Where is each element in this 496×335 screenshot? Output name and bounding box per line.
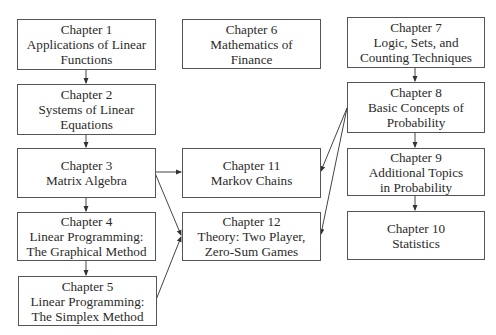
chapter-title-line: Theory: Two Player,: [198, 229, 306, 244]
chapter-heading: Chapter 4: [61, 214, 113, 229]
arrow-ch3-ch12: [155, 173, 181, 235]
chapter-title-line: Mathematics of: [210, 37, 292, 52]
chapter-title-line: in Probability: [380, 180, 452, 195]
chapter-title-line: Finance: [231, 52, 273, 67]
chapter-9-box: Chapter 9 Additional Topics in Probabili…: [347, 148, 485, 196]
chapter-heading: Chapter 12: [222, 214, 280, 229]
chapter-title-line: Additional Topics: [369, 165, 463, 180]
chapter-title-line: Counting Techniques: [360, 50, 472, 65]
chapter-title-line: Applications of Linear: [27, 37, 146, 52]
chapter-title-line: Linear Programming:: [31, 294, 145, 309]
chapter-title-line: Basic Concepts of: [368, 100, 464, 115]
chapter-heading: Chapter 9: [390, 150, 442, 165]
chapter-heading: Chapter 1: [61, 22, 113, 37]
chapter-title-line: Probability: [387, 115, 446, 130]
arrow-ch8-ch12: [321, 108, 347, 234]
chapter-12-box: Chapter 12 Theory: Two Player, Zero-Sum …: [182, 212, 321, 261]
chapter-title-line: The Simplex Method: [31, 309, 143, 324]
chapter-title-line: Logic, Sets, and: [374, 35, 459, 50]
chapter-title-line: Systems of Linear: [39, 102, 135, 117]
chapter-1-box: Chapter 1 Applications of Linear Functio…: [17, 19, 156, 70]
chapter-title-line: Zero-Sum Games: [205, 244, 298, 259]
chapter-3-box: Chapter 3 Matrix Algebra: [17, 148, 156, 198]
chapter-heading: Chapter 2: [61, 87, 113, 102]
chapter-5-box: Chapter 5 Linear Programming: The Simple…: [18, 276, 157, 326]
chapter-7-box: Chapter 7 Logic, Sets, and Counting Tech…: [347, 17, 485, 68]
chapter-title-line: Matrix Algebra: [46, 173, 127, 188]
chapter-title-line: The Graphical Method: [26, 244, 146, 259]
chapter-6-box: Chapter 6 Mathematics of Finance: [182, 19, 321, 69]
chapter-heading: Chapter 5: [62, 279, 114, 294]
chapter-title-line: Markov Chains: [211, 173, 293, 188]
chapter-heading: Chapter 6: [226, 22, 278, 37]
chapter-2-box: Chapter 2 Systems of Linear Equations: [17, 84, 156, 135]
chapter-heading: Chapter 10: [387, 221, 445, 236]
chapter-title-line: Equations: [60, 117, 113, 132]
chapter-title-line: Functions: [60, 52, 112, 67]
chapter-heading: Chapter 8: [390, 85, 442, 100]
chapter-8-box: Chapter 8 Basic Concepts of Probability: [347, 82, 485, 133]
chapter-heading: Chapter 7: [390, 20, 442, 35]
chapter-heading: Chapter 3: [61, 158, 113, 173]
arrow-ch5-ch12: [156, 237, 181, 300]
arrow-ch8-ch11: [321, 108, 347, 171]
chapter-heading: Chapter 11: [223, 158, 281, 173]
chapter-title-line: Linear Programming:: [30, 229, 144, 244]
chapter-4-box: Chapter 4 Linear Programming: The Graphi…: [17, 212, 156, 261]
chapter-11-box: Chapter 11 Markov Chains: [182, 148, 321, 198]
chapter-title-line: Statistics: [392, 236, 440, 251]
chapter-10-box: Chapter 10 Statistics: [347, 211, 485, 260]
